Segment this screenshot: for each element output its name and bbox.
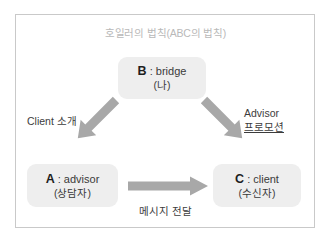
- edge-label-a-to-c-line1: 메시지 전달: [0, 204, 331, 218]
- edge-label-a-to-c: 메시지 전달: [0, 204, 331, 218]
- node-c-role: client: [253, 173, 279, 185]
- edge-label-b-to-a: Client 소개: [27, 114, 77, 128]
- node-c-line2: (수신자): [239, 187, 276, 200]
- node-a-role: advisor: [64, 173, 99, 185]
- node-b-role: bridge: [156, 65, 187, 77]
- node-c-line1: C : client: [235, 171, 279, 187]
- node-b-line1: B : bridge: [138, 63, 187, 79]
- node-b-separator: :: [147, 65, 156, 77]
- edge-label-b-to-c-line2: 프로모션: [244, 120, 284, 134]
- node-b-line2: (나): [154, 79, 171, 92]
- node-c-separator: :: [244, 173, 253, 185]
- diagram-title: 호일러의 법칙(ABC의 법칙): [0, 25, 331, 40]
- edge-label-b-to-c: Advisor 프로모션: [244, 106, 284, 134]
- node-c-client: C : client (수신자): [213, 164, 301, 207]
- arrow-b-to-a-icon: [58, 96, 130, 166]
- edge-label-b-to-a-line1: Client 소개: [27, 114, 77, 128]
- node-b-bridge: B : bridge (나): [118, 57, 206, 99]
- node-a-advisor: A : advisor (상담자): [27, 164, 118, 207]
- node-a-line2: (상담자): [54, 187, 91, 200]
- node-a-separator: :: [55, 173, 64, 185]
- node-c-key: C: [235, 172, 244, 186]
- diagram-canvas: 호일러의 법칙(ABC의 법칙) B : bridge (나) A : advi…: [0, 0, 331, 244]
- node-a-key: A: [46, 172, 55, 186]
- edge-label-b-to-c-line1: Advisor: [244, 106, 284, 120]
- node-b-key: B: [138, 64, 147, 78]
- node-a-line1: A : advisor: [46, 171, 100, 187]
- arrow-a-to-c-icon: [128, 176, 212, 196]
